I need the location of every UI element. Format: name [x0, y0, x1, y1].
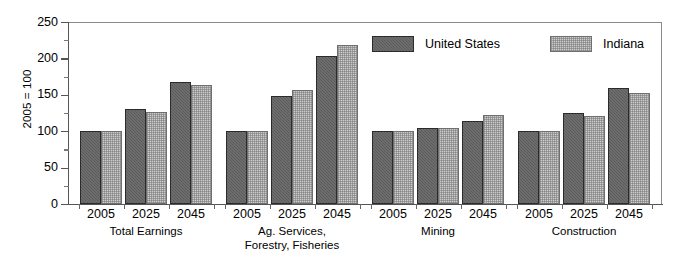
x-axis-tick — [607, 204, 608, 209]
legend-entry-united-states: United States — [372, 36, 500, 52]
y-axis-tick-minor — [64, 77, 70, 78]
bar — [393, 131, 414, 204]
bar — [191, 85, 212, 204]
x-axis-year-label: 2025 — [570, 207, 598, 221]
y-axis-tick-minor — [64, 40, 70, 41]
y-axis-tick-major — [61, 58, 69, 59]
x-axis-year-label: 2045 — [615, 207, 643, 221]
y-axis-tick-minor — [64, 113, 70, 114]
bar — [417, 128, 438, 204]
bar — [247, 131, 268, 204]
bar — [438, 128, 459, 204]
x-axis-year-label: 2005 — [233, 207, 261, 221]
x-axis-tick — [214, 204, 215, 209]
bar — [584, 116, 605, 204]
x-axis-year-label: 2005 — [525, 207, 553, 221]
x-axis-tick — [652, 204, 653, 209]
x-axis-year-label: 2005 — [87, 207, 115, 221]
x-axis-tick — [169, 204, 170, 209]
x-axis-tick — [315, 204, 316, 209]
y-axis-tick-labels: 050100150200250 — [8, 0, 58, 259]
x-axis-tick — [79, 204, 80, 209]
y-axis-tick-label: 50 — [12, 161, 58, 174]
x-axis-group-label-line: Forestry, Fisheries — [245, 238, 339, 252]
x-axis-year-label: 2045 — [469, 207, 497, 221]
y-axis-tick-label: 0 — [12, 198, 58, 211]
bar — [337, 45, 358, 204]
bar — [462, 121, 483, 204]
bar-chart: 2005 = 100 050100150200250 200520252045T… — [0, 0, 676, 259]
x-axis-tick — [225, 204, 226, 209]
bar — [170, 82, 191, 204]
x-axis-group-label: Total Earnings — [110, 224, 183, 238]
bar — [271, 96, 292, 204]
x-axis-year-label: 2025 — [278, 207, 306, 221]
x-axis-year-label: 2045 — [323, 207, 351, 221]
x-axis-tick — [461, 204, 462, 209]
x-axis-year-label: 2025 — [424, 207, 452, 221]
y-axis-tick-label: 100 — [12, 125, 58, 138]
legend-label-indiana: Indiana — [603, 37, 644, 51]
x-axis-year-label: 2025 — [132, 207, 160, 221]
bar — [518, 131, 539, 204]
y-axis-tick-major — [61, 95, 69, 96]
x-axis-line — [68, 204, 663, 205]
legend-swatch-united-states — [372, 36, 414, 52]
x-axis-group-label-line: Construction — [552, 224, 617, 238]
x-axis-tick — [562, 204, 563, 209]
y-axis-tick-minor — [64, 186, 70, 187]
bar — [125, 109, 146, 204]
bar — [483, 115, 504, 204]
y-axis-tick-major — [61, 22, 69, 23]
y-axis-tick-major — [61, 131, 69, 132]
y-axis-tick-label: 250 — [12, 16, 58, 29]
x-axis-tick — [416, 204, 417, 209]
y-axis-tick-major — [61, 204, 69, 205]
x-axis-year-label: 2005 — [379, 207, 407, 221]
x-axis-tick — [124, 204, 125, 209]
x-axis-year-label: 2045 — [177, 207, 205, 221]
bar — [226, 131, 247, 204]
bar — [608, 88, 629, 204]
x-axis-group-label-line: Ag. Services, — [245, 224, 339, 238]
x-axis-tick — [270, 204, 271, 209]
bar — [146, 112, 167, 204]
x-axis-group-label: Mining — [421, 224, 455, 238]
bar — [292, 90, 313, 204]
bar — [372, 131, 393, 204]
x-axis-tick — [517, 204, 518, 209]
x-axis-tick — [371, 204, 372, 209]
y-axis-tick-label: 150 — [12, 88, 58, 101]
x-axis-group-label: Construction — [552, 224, 617, 238]
x-axis-tick — [360, 204, 361, 209]
y-axis-tick-minor — [64, 149, 70, 150]
x-axis-tick — [506, 204, 507, 209]
legend-swatch-indiana — [550, 36, 592, 52]
bar — [563, 113, 584, 204]
y-axis-tick-major — [61, 168, 69, 169]
x-axis-group-label: Ag. Services,Forestry, Fisheries — [245, 224, 339, 252]
bar — [80, 131, 101, 204]
legend-label-united-states: United States — [425, 37, 500, 51]
legend-entry-indiana: Indiana — [550, 36, 644, 52]
bar — [539, 131, 560, 204]
bar — [316, 56, 337, 205]
bar — [101, 131, 122, 204]
x-axis-group-label-line: Total Earnings — [110, 224, 183, 238]
x-axis-group-label-line: Mining — [421, 224, 455, 238]
bar — [629, 93, 650, 204]
legend: United States Indiana — [372, 36, 644, 52]
y-axis-tick-label: 200 — [12, 52, 58, 65]
